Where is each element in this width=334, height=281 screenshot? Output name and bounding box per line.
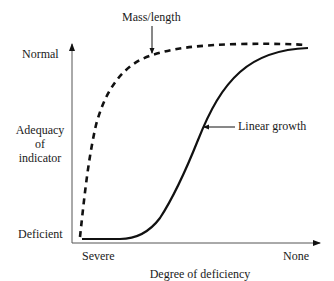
mass-length-curve: [80, 44, 306, 237]
x-axis-title: Degree of deficiency: [150, 268, 251, 281]
annotation-linear-growth: Linear growth: [238, 120, 306, 133]
annotation-mass-length: Mass/length: [122, 11, 181, 24]
y-label-normal: Normal: [22, 48, 59, 61]
y-label-of: of: [35, 138, 45, 151]
y-label-indicator: indicator: [19, 152, 62, 165]
x-label-none: None: [283, 250, 309, 263]
y-label-deficient: Deficient: [18, 228, 63, 241]
y-label-adequacy: Adequacy: [16, 124, 65, 137]
linear-growth-curve: [82, 48, 308, 239]
x-label-severe: Severe: [82, 250, 115, 263]
deficiency-diagram: Mass/length Linear growth Normal Adequac…: [0, 0, 334, 281]
